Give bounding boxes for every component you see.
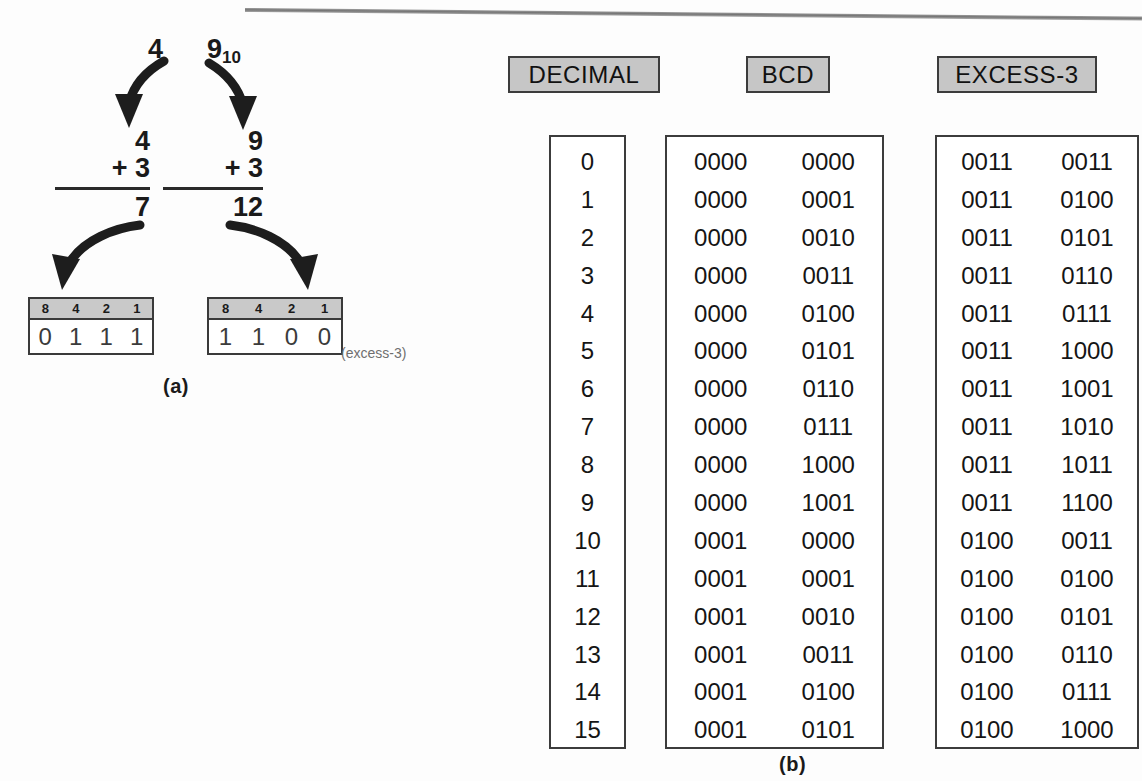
cell-excess3-low: 0100 <box>1037 565 1137 593</box>
panel-part-b: DECIMAL BCD EXCESS-3 0123456789101112131… <box>490 0 1142 781</box>
cell-excess3-low: 0101 <box>1037 603 1137 631</box>
cell-bcd-low: 0010 <box>775 603 883 631</box>
table-row: 00000111 <box>667 408 882 446</box>
cell-bcd-low: 0011 <box>775 262 883 290</box>
table-row: 00111011 <box>937 446 1137 484</box>
addend-top-left: 4 <box>55 128 150 155</box>
table-row: 00000010 <box>667 219 882 257</box>
table-row: 01001000 <box>937 711 1137 749</box>
column-header-excess3: EXCESS-3 <box>937 56 1097 93</box>
table-row: 00000000 <box>667 143 882 181</box>
cell-bcd-high: 0000 <box>667 337 775 365</box>
table-row: 00001001 <box>667 484 882 522</box>
weight-8: 8 <box>209 299 242 318</box>
cell-bcd-low: 0011 <box>775 641 883 669</box>
table-bcd-body: 0000000000000001000000100000001100000100… <box>667 143 882 749</box>
cell-excess3-low: 0110 <box>1037 262 1137 290</box>
cell-bcd-low: 0000 <box>775 148 883 176</box>
figure-label-a: (a) <box>163 375 189 398</box>
cell-excess3-high: 0011 <box>937 375 1037 403</box>
bit-row-right: 1 1 0 0 <box>209 320 341 353</box>
table-row: 6 <box>551 370 624 408</box>
excess-3-note: (excess-3) <box>341 345 406 361</box>
column-header-excess3-label: EXCESS-3 <box>955 61 1079 89</box>
cell-decimal: 8 <box>551 451 624 479</box>
table-row: 00111010 <box>937 408 1137 446</box>
table-row: 11 <box>551 560 624 598</box>
cell-excess3-high: 0011 <box>937 300 1037 328</box>
cell-excess3-high: 0011 <box>937 148 1037 176</box>
cell-decimal: 12 <box>551 603 624 631</box>
table-row: 00010010 <box>667 598 882 636</box>
cell-excess3-low: 0110 <box>1037 641 1137 669</box>
cell-decimal: 10 <box>551 527 624 555</box>
table-row: 00010011 <box>667 636 882 674</box>
table-row: 00000011 <box>667 257 882 295</box>
table-row: 00010100 <box>667 673 882 711</box>
cell-bcd-low: 0111 <box>775 413 883 441</box>
figure-canvas: 4 4 + 3 7 8 4 2 1 0 1 <box>0 0 1142 781</box>
addend-top-right: 9 <box>163 128 263 155</box>
table-row: 1 <box>551 181 624 219</box>
table-row: 00110111 <box>937 295 1137 333</box>
cell-excess3-low: 1011 <box>1037 451 1137 479</box>
cell-decimal: 0 <box>551 148 624 176</box>
table-row: 01000110 <box>937 636 1137 674</box>
cell-decimal: 4 <box>551 300 624 328</box>
sum-left: 7 <box>55 194 150 221</box>
cell-decimal: 11 <box>551 565 624 593</box>
weight-header-right: 8 4 2 1 <box>209 299 341 320</box>
table-row: 3 <box>551 257 624 295</box>
column-header-bcd: BCD <box>746 56 830 93</box>
code-box-left: 8 4 2 1 0 1 1 1 <box>28 297 154 355</box>
table-row: 4 <box>551 295 624 333</box>
addition-rule-left <box>55 187 150 190</box>
table-row: 00110110 <box>937 257 1137 295</box>
panel-part-a: 4 4 + 3 7 8 4 2 1 0 1 <box>0 0 470 410</box>
cell-excess3-low: 0111 <box>1037 300 1137 328</box>
cell-excess3-high: 0100 <box>937 641 1037 669</box>
table-row: 15 <box>551 711 624 749</box>
table-row: 13 <box>551 636 624 674</box>
cell-excess3-high: 0011 <box>937 224 1037 252</box>
cell-excess3-low: 1100 <box>1037 489 1137 517</box>
table-row: 0 <box>551 143 624 181</box>
cell-decimal: 9 <box>551 489 624 517</box>
bit-3: 0 <box>30 320 61 353</box>
cell-excess3-high: 0011 <box>937 489 1037 517</box>
cell-bcd-low: 0001 <box>775 565 883 593</box>
weight-header-left: 8 4 2 1 <box>30 299 152 320</box>
cell-excess3-low: 0100 <box>1037 186 1137 214</box>
table-row: 00000100 <box>667 295 882 333</box>
table-row: 00000001 <box>667 181 882 219</box>
table-bcd: 0000000000000001000000100000001100000100… <box>665 135 884 749</box>
bit-1: 0 <box>275 320 308 353</box>
bit-row-left: 0 1 1 1 <box>30 320 152 353</box>
table-row: 7 <box>551 408 624 446</box>
weight-4: 4 <box>61 299 92 318</box>
table-row: 00010001 <box>667 560 882 598</box>
cell-decimal: 5 <box>551 337 624 365</box>
table-row: 5 <box>551 332 624 370</box>
table-row: 01000111 <box>937 673 1137 711</box>
table-row: 10 <box>551 522 624 560</box>
bit-1: 1 <box>91 320 122 353</box>
cell-excess3-high: 0100 <box>937 565 1037 593</box>
sum-right: 12 <box>163 194 263 221</box>
cell-decimal: 15 <box>551 716 624 744</box>
cell-bcd-low: 1001 <box>775 489 883 517</box>
cell-decimal: 7 <box>551 413 624 441</box>
cell-excess3-high: 0100 <box>937 678 1037 706</box>
table-decimal-body: 0123456789101112131415 <box>551 143 624 749</box>
bit-0: 1 <box>122 320 153 353</box>
cell-bcd-high: 0000 <box>667 300 775 328</box>
weight-2: 2 <box>275 299 308 318</box>
cell-excess3-high: 0011 <box>937 451 1037 479</box>
cell-bcd-low: 0100 <box>775 678 883 706</box>
cell-bcd-high: 0000 <box>667 489 775 517</box>
cell-excess3-high: 0100 <box>937 527 1037 555</box>
table-row: 9 <box>551 484 624 522</box>
cell-excess3-high: 0011 <box>937 262 1037 290</box>
table-row: 8 <box>551 446 624 484</box>
cell-bcd-high: 0000 <box>667 413 775 441</box>
